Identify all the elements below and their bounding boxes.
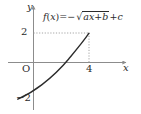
formula-minus: − <box>67 11 75 22</box>
function-formula-label: f(x)=−√ax+b+c <box>43 11 123 22</box>
y-tick-label-2: 2 <box>21 27 27 37</box>
y-tick-label-negative-2: −2 <box>16 93 31 103</box>
function-graph-figure: y x O 2 −2 4 f(x)=−√ax+b+c <box>0 0 141 114</box>
x-axis-label: x <box>123 63 129 73</box>
origin-label: O <box>22 64 30 74</box>
formula-radical: √ax+b <box>75 11 109 22</box>
y-axis-label: y <box>27 2 33 12</box>
x-tick-label-4: 4 <box>86 64 92 74</box>
formula-constant: c <box>117 11 122 22</box>
formula-radicand: ax+b <box>82 11 109 22</box>
